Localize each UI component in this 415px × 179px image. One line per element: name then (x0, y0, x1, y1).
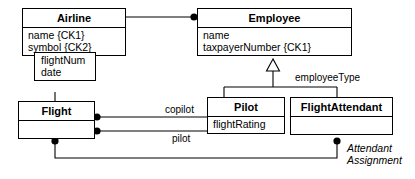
generalization-hollow-triangle-icon (267, 59, 280, 71)
flight-attribute: date (41, 67, 90, 79)
attendant-assignment-dot-flightattendant-end (333, 137, 340, 144)
flight-attribute-box[interactable]: flightNum date (34, 52, 96, 81)
class-flightattendant-name: FlightAttendant (291, 98, 392, 117)
attendant-assignment-line (55, 141, 337, 158)
class-airline-name: Airline (23, 9, 125, 28)
class-airline-attributes: name {CK1} symbol {CK2} (23, 28, 125, 55)
label-copilot: copilot (165, 104, 194, 115)
label-attendant-assignment: Attendant Assignment (347, 142, 402, 166)
class-flightattendant-attributes (291, 117, 392, 134)
class-flight[interactable]: Flight (18, 101, 95, 139)
class-employee[interactable]: Employee name taxpayerNumber {CK1} (197, 8, 352, 56)
uml-class-diagram: Airline name {CK1} symbol {CK2} flightNu… (0, 0, 415, 179)
class-employee-attribute: name (203, 30, 347, 42)
label-pilot: pilot (172, 133, 190, 144)
class-pilot-attributes: flightRating (208, 117, 284, 133)
class-flightattendant[interactable]: FlightAttendant (290, 97, 393, 135)
class-pilot-attribute: flightRating (213, 119, 280, 131)
class-pilot[interactable]: Pilot flightRating (207, 97, 285, 134)
label-attendant-assignment-line2: Assignment (347, 154, 402, 166)
class-airline-attribute: name {CK1} (28, 30, 121, 42)
label-attendant-assignment-line1: Attendant (347, 142, 402, 154)
flight-attribute: flightNum (41, 55, 90, 67)
label-employee-type: employeeType (295, 72, 360, 83)
class-employee-attributes: name taxpayerNumber {CK1} (198, 28, 351, 55)
class-pilot-name: Pilot (208, 98, 284, 117)
class-flight-name: Flight (19, 102, 94, 121)
class-airline[interactable]: Airline name {CK1} symbol {CK2} (22, 8, 126, 56)
class-flight-attributes (19, 121, 94, 138)
class-employee-attribute: taxpayerNumber {CK1} (203, 42, 347, 54)
class-employee-name: Employee (198, 9, 351, 28)
